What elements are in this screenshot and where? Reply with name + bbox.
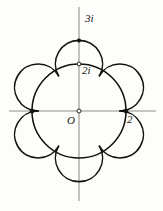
complex-plane-figure xyxy=(0,0,163,211)
petal-lower-right xyxy=(99,111,143,158)
node-circle-top-2i xyxy=(77,62,81,66)
label-3i: 3i xyxy=(85,13,94,24)
figure-container: 3i 2i O 2 xyxy=(0,0,163,211)
node-top-apex xyxy=(77,39,80,42)
petal-upper-right xyxy=(99,64,143,111)
node-real-left xyxy=(30,109,34,113)
label-origin: O xyxy=(67,115,75,126)
axes-group xyxy=(9,7,156,201)
node-origin xyxy=(77,109,81,113)
petal-upper-left xyxy=(15,64,59,111)
label-real-2: 2 xyxy=(127,114,133,125)
label-2i: 2i xyxy=(82,65,91,76)
petal-lower-left xyxy=(15,111,59,158)
